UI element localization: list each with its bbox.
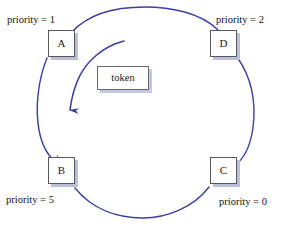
node-a-label: A bbox=[58, 38, 66, 49]
node-d-label: D bbox=[220, 38, 228, 49]
node-c-label: C bbox=[220, 165, 227, 176]
token-ring-diagram: A priority = 1 D priority = 2 B priority… bbox=[0, 0, 291, 226]
node-b-label: B bbox=[58, 165, 65, 176]
node-b[interactable]: B bbox=[48, 157, 75, 184]
node-a[interactable]: A bbox=[48, 30, 75, 57]
ring-arc-a-to-d bbox=[72, 7, 218, 32]
token-box[interactable]: token bbox=[97, 66, 149, 90]
node-a-priority-label: priority = 1 bbox=[7, 15, 55, 26]
node-c[interactable]: C bbox=[210, 157, 237, 184]
node-b-priority-label: priority = 5 bbox=[6, 195, 54, 206]
node-d[interactable]: D bbox=[210, 30, 237, 57]
node-c-priority-label: priority = 0 bbox=[219, 197, 267, 208]
ring-arc-c-to-b bbox=[75, 187, 209, 218]
token-label: token bbox=[111, 73, 134, 84]
ring-arc-b-to-a bbox=[37, 58, 56, 162]
node-d-priority-label: priority = 2 bbox=[216, 15, 264, 26]
ring-arc-d-to-c bbox=[234, 57, 254, 166]
ring-graphic bbox=[0, 0, 291, 226]
